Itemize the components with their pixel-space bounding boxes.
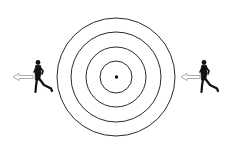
diagram-svg — [0, 0, 228, 145]
right-arrow-icon — [181, 74, 200, 81]
left-runner-icon — [34, 60, 52, 92]
left-arrow-icon — [13, 74, 33, 81]
center-dot — [115, 75, 118, 78]
right-runner-icon — [200, 60, 218, 92]
diagram-canvas — [0, 0, 228, 145]
